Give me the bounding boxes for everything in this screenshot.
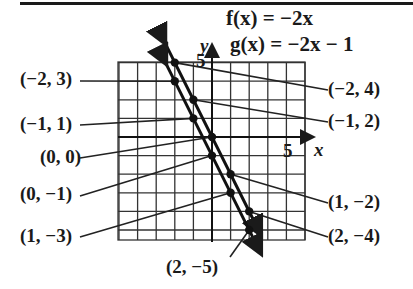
x-axis-label: x [314, 139, 324, 161]
g-point [226, 189, 234, 197]
leader-line [80, 156, 212, 196]
point-label-f-0: (0, 0) [40, 146, 81, 168]
g-point [208, 151, 216, 159]
g-point [189, 114, 197, 122]
x-tick-label: 5 [283, 140, 293, 162]
leader-line [231, 174, 328, 203]
f-point [171, 58, 179, 66]
f-point [208, 133, 216, 141]
y-tick-label: 5 [196, 50, 206, 72]
point-label-g-2: (2, −5) [166, 256, 218, 278]
f-point [189, 96, 197, 104]
f-point [226, 170, 234, 178]
point-label-f-neg2: (−2, 4) [328, 78, 380, 100]
leader-line [230, 230, 249, 257]
leader-line [80, 118, 193, 125]
leader-line [80, 137, 212, 158]
g-point [245, 226, 253, 234]
point-label-f-neg1: (−1, 2) [328, 110, 380, 132]
f-point [245, 207, 253, 215]
point-label-g-0: (0, −1) [20, 183, 72, 205]
point-label-g-neg1: (−1, 1) [20, 113, 72, 135]
g-point [171, 77, 179, 85]
point-label-g-neg2: (−2, 3) [20, 68, 72, 90]
point-label-f-1: (1, −2) [328, 191, 380, 213]
point-label-f-2: (2, −4) [328, 225, 380, 247]
point-label-g-1: (1, −3) [20, 225, 72, 247]
